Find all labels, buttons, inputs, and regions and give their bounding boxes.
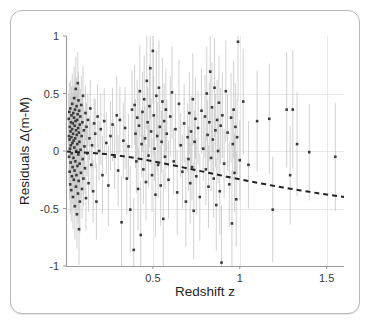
data-point — [84, 167, 87, 170]
data-point — [67, 118, 70, 121]
data-point — [69, 126, 72, 129]
data-point — [237, 40, 240, 43]
data-point — [188, 112, 191, 115]
data-point — [71, 103, 74, 106]
data-point — [216, 119, 219, 122]
y-axis-title: Residuals Δ(m-M) — [17, 97, 32, 205]
data-point — [238, 159, 241, 162]
data-point — [186, 136, 189, 139]
data-point — [74, 108, 77, 111]
data-point — [220, 261, 223, 264]
data-point — [117, 169, 120, 172]
data-point — [91, 144, 94, 147]
data-point — [72, 112, 75, 115]
data-point — [73, 97, 76, 100]
data-point — [72, 139, 75, 142]
data-point — [194, 118, 197, 121]
data-point — [92, 190, 95, 193]
data-point — [82, 95, 85, 98]
data-point — [228, 183, 231, 186]
data-point — [71, 128, 74, 131]
data-point — [80, 172, 83, 175]
data-point — [161, 100, 164, 103]
data-point — [221, 114, 224, 117]
y-tick-label: -0.5 — [40, 203, 59, 215]
data-point — [73, 146, 76, 149]
data-point — [187, 158, 190, 161]
data-point — [160, 141, 163, 144]
data-point — [80, 135, 83, 138]
data-point — [85, 197, 88, 200]
data-point — [75, 185, 78, 188]
data-point — [78, 123, 81, 126]
data-point — [71, 175, 74, 178]
plot-svg: 0.511.510.50-0.5-1 Redshift z Residuals … — [0, 0, 372, 326]
data-point — [94, 132, 97, 135]
data-point — [70, 114, 73, 117]
data-point — [129, 208, 132, 211]
data-point — [84, 112, 87, 115]
data-point — [146, 121, 149, 124]
data-point — [75, 105, 78, 108]
data-point — [134, 132, 137, 135]
data-point — [167, 178, 170, 181]
data-point — [198, 196, 201, 199]
data-point — [145, 181, 148, 184]
data-point — [172, 160, 175, 163]
data-point — [289, 174, 292, 177]
data-point — [85, 126, 88, 129]
data-point — [127, 145, 130, 148]
data-point — [87, 119, 90, 122]
data-point — [171, 91, 174, 94]
data-point — [77, 127, 80, 130]
data-point — [296, 143, 299, 146]
data-point — [218, 190, 221, 193]
data-point — [101, 174, 104, 177]
data-point — [137, 188, 140, 191]
data-point — [76, 119, 79, 122]
data-point — [122, 139, 125, 142]
data-point — [78, 162, 81, 165]
data-point — [165, 132, 168, 135]
data-point — [230, 116, 233, 119]
data-point — [82, 177, 85, 180]
data-point — [157, 164, 160, 167]
data-point — [142, 168, 145, 171]
data-point — [150, 130, 153, 133]
data-point — [217, 150, 220, 153]
data-point — [232, 143, 235, 146]
data-point — [152, 114, 155, 117]
data-point — [285, 108, 288, 111]
data-point — [148, 105, 151, 108]
data-point — [74, 88, 77, 91]
data-point — [71, 122, 74, 125]
data-point — [74, 160, 77, 163]
data-point — [77, 153, 80, 156]
data-point — [75, 129, 78, 132]
data-point — [207, 185, 210, 188]
data-point — [90, 164, 93, 167]
data-point — [73, 169, 76, 172]
data-point — [242, 100, 245, 103]
data-point — [74, 205, 77, 208]
data-point — [145, 80, 148, 83]
data-point — [120, 221, 123, 224]
data-point — [232, 108, 235, 111]
data-point — [75, 134, 78, 137]
data-point — [223, 162, 226, 165]
data-point — [147, 154, 150, 157]
data-point — [204, 115, 207, 118]
data-point — [83, 145, 86, 148]
data-point — [72, 157, 75, 160]
data-point — [70, 144, 73, 147]
data-point — [78, 141, 81, 144]
data-point — [179, 144, 182, 147]
data-point — [152, 50, 155, 53]
data-point — [191, 166, 194, 169]
data-point — [76, 165, 79, 168]
data-point — [291, 108, 294, 111]
data-point — [213, 86, 216, 89]
data-point — [163, 120, 166, 123]
data-point — [256, 120, 259, 123]
data-point — [132, 249, 135, 252]
